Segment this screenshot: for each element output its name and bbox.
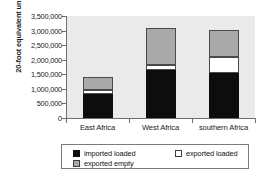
y-axis-tick-mark: [62, 45, 67, 46]
x-axis-category-label: West Africa: [142, 123, 179, 132]
legend-swatch-imported-loaded-icon: [73, 150, 80, 157]
legend-item-imported-loaded: imported loaded: [73, 149, 136, 158]
x-axis-line: [66, 118, 256, 119]
y-axis-tick-mark: [62, 89, 67, 90]
legend-swatch-exported-loaded-icon: [175, 150, 182, 157]
bar-stack[interactable]: [209, 16, 239, 118]
bar-segment-imported-loaded[interactable]: [209, 73, 239, 118]
legend-item-exported-loaded: exported loaded: [175, 149, 238, 158]
y-axis-tick-label: 1,500,000: [14, 70, 62, 79]
legend-label-exported-loaded: exported loaded: [186, 149, 238, 158]
x-axis-category-label: East Africa: [80, 123, 115, 132]
bar-segment-exported-loaded[interactable]: [83, 90, 113, 94]
x-axis-tick-mark: [129, 119, 130, 123]
y-axis-tick-label: 0: [14, 114, 62, 123]
chart-container: 20-foot equivalent units 0500,0001,000,0…: [0, 0, 268, 175]
y-axis-tick-mark: [62, 103, 67, 104]
bar-segment-exported-empty[interactable]: [83, 77, 113, 90]
y-axis-tick-label: 500,000: [14, 99, 62, 108]
y-axis-tick-label: 3,000,000: [14, 26, 62, 35]
chart-legend: imported loaded exported loaded exported…: [61, 144, 249, 169]
y-axis-tick-label: 1,000,000: [14, 84, 62, 93]
y-axis-tick-mark: [62, 31, 67, 32]
x-axis-tick-mark: [66, 119, 67, 123]
y-axis-tick-label: 2,500,000: [14, 41, 62, 50]
y-axis-tick-label: 3,500,000: [14, 12, 62, 21]
y-axis-tick-mark: [62, 60, 67, 61]
legend-swatch-exported-empty-icon: [73, 160, 80, 167]
bar-segment-exported-loaded[interactable]: [146, 65, 176, 70]
bar-segment-exported-loaded[interactable]: [209, 57, 239, 73]
x-axis-category-label: southern Africa: [199, 123, 248, 132]
y-axis-tick-mark: [62, 74, 67, 75]
bar-stack[interactable]: [146, 16, 176, 118]
bar-segment-exported-empty[interactable]: [146, 28, 176, 65]
x-axis-tick-mark: [255, 119, 256, 123]
bar-segment-imported-loaded[interactable]: [83, 94, 113, 118]
bar-segment-imported-loaded[interactable]: [146, 70, 176, 118]
y-axis-tick-label: 2,000,000: [14, 55, 62, 64]
legend-label-exported-empty: exported empty: [84, 159, 134, 168]
bar-segment-exported-empty[interactable]: [209, 30, 239, 57]
y-axis-tick-mark: [62, 16, 67, 17]
legend-item-exported-empty: exported empty: [73, 159, 134, 168]
bar-stack[interactable]: [83, 16, 113, 118]
y-axis-tick-labels: 0500,0001,000,0001,500,0002,000,0002,500…: [14, 12, 62, 122]
legend-label-imported-loaded: imported loaded: [84, 149, 136, 158]
x-axis-tick-mark: [192, 119, 193, 123]
